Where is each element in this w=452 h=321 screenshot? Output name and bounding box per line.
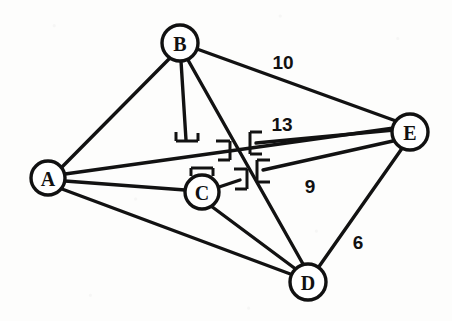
node-c[interactable]: C bbox=[185, 175, 219, 209]
node-d[interactable]: D bbox=[290, 264, 326, 300]
edge-b-c[interactable] bbox=[181, 61, 186, 140]
edge-a-b[interactable] bbox=[62, 59, 169, 167]
graph-svg: A B C D E 10 13 9 6 bbox=[0, 0, 452, 321]
node-b-label: B bbox=[173, 33, 186, 55]
node-c-label: C bbox=[195, 182, 209, 204]
edge-c-e-lower[interactable] bbox=[263, 141, 393, 170]
edge-b-e[interactable] bbox=[197, 49, 396, 121]
node-a[interactable]: A bbox=[31, 161, 65, 195]
edge-a-d[interactable] bbox=[62, 189, 293, 275]
node-a-label: A bbox=[41, 168, 56, 190]
node-layer: A B C D E bbox=[31, 25, 428, 300]
edge-weight-10: 10 bbox=[272, 52, 293, 73]
node-b[interactable]: B bbox=[162, 25, 198, 61]
diagram-canvas: A B C D E 10 13 9 6 bbox=[0, 0, 452, 321]
edge-a-c[interactable] bbox=[65, 181, 185, 190]
edge-weight-9: 9 bbox=[305, 176, 316, 197]
node-d-label: D bbox=[301, 272, 315, 294]
node-e-label: E bbox=[403, 122, 416, 144]
edge-weight-13: 13 bbox=[271, 114, 292, 135]
edge-weight-6: 6 bbox=[353, 232, 364, 253]
edge-c-right-stub[interactable] bbox=[219, 180, 240, 187]
node-e[interactable]: E bbox=[392, 114, 428, 150]
